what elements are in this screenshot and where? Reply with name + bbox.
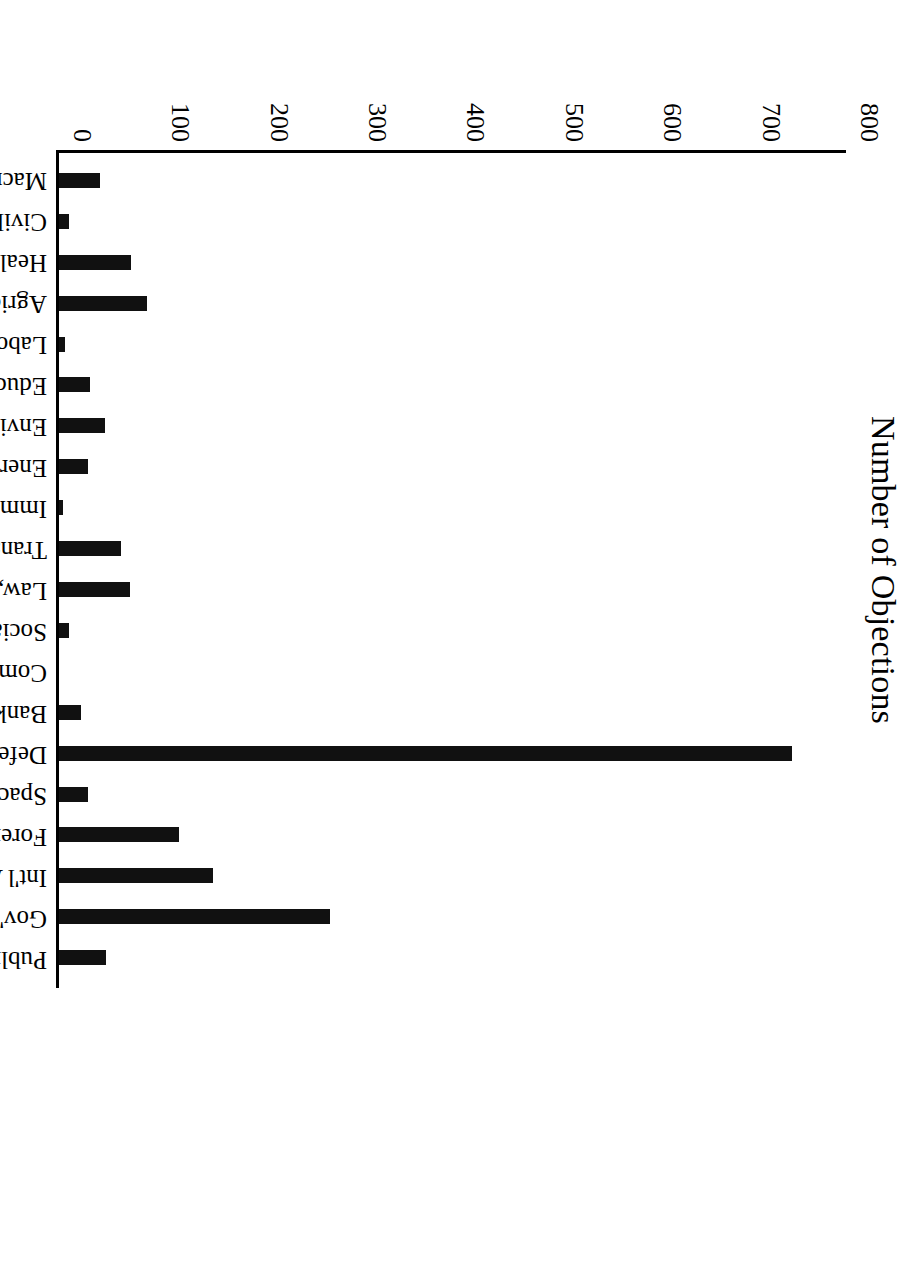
category-label-slot: Social Welfare bbox=[0, 611, 53, 652]
category-axis-tick-label: Macroeconomics bbox=[0, 168, 47, 193]
bar-slot bbox=[59, 855, 846, 896]
bar[interactable] bbox=[59, 623, 69, 638]
bar-slot bbox=[59, 569, 846, 610]
bar-slot bbox=[59, 815, 846, 856]
category-label-slot: Foreign Trade bbox=[0, 816, 53, 857]
category-axis-tick-label: Gov't Operations bbox=[0, 906, 47, 931]
category-axis-tick-label: Education bbox=[0, 373, 47, 398]
value-axis-title: Number of Objections bbox=[864, 150, 902, 990]
bar-slot bbox=[59, 692, 846, 733]
value-axis-tick-label: 400 bbox=[463, 92, 489, 142]
bar-slot bbox=[59, 242, 846, 283]
category-label-slot: Community Development & Housing bbox=[0, 652, 53, 693]
bar[interactable] bbox=[59, 746, 792, 761]
category-label-slot: Gov't Operations bbox=[0, 898, 53, 939]
category-label-slot: Law, Crime, & Family Issues bbox=[0, 570, 53, 611]
value-axis-tick-label: 0 bbox=[69, 92, 95, 142]
category-axis-tick-label: Health bbox=[0, 250, 47, 275]
value-axis-tick bbox=[56, 150, 57, 153]
value-axis-tick-label: 300 bbox=[364, 92, 390, 142]
bar-slot bbox=[59, 160, 846, 201]
category-axis-tick-label: Energy bbox=[0, 455, 47, 480]
bar[interactable] bbox=[59, 827, 179, 842]
bar-slot bbox=[59, 446, 846, 487]
bar[interactable] bbox=[59, 377, 90, 392]
category-axis-tick-label: Law, Crime, & Family Issues bbox=[0, 578, 47, 603]
category-axis-tick-label: Banking, Finance, and Dom. Commerce bbox=[0, 701, 47, 726]
value-axis-tick-label: 800 bbox=[856, 92, 882, 142]
category-axis-tick-label: Environment bbox=[0, 414, 47, 439]
bar[interactable] bbox=[59, 459, 88, 474]
bar-slot bbox=[59, 733, 846, 774]
bar-slot bbox=[59, 324, 846, 365]
category-axis-tick-label: Transportation bbox=[0, 537, 47, 562]
bar-slot bbox=[59, 487, 846, 528]
category-axis-tick-label: Social Welfare bbox=[0, 619, 47, 644]
value-axis-tick-label: 600 bbox=[659, 92, 685, 142]
category-axis-labels: MacroeconomicsCivil Rights & LibertiesHe… bbox=[0, 150, 53, 990]
bar-slot bbox=[59, 610, 846, 651]
bar-slot bbox=[59, 528, 846, 569]
bar[interactable] bbox=[59, 868, 213, 883]
bar[interactable] bbox=[59, 705, 81, 720]
bar[interactable] bbox=[59, 214, 69, 229]
category-label-slot: Immigration bbox=[0, 488, 53, 529]
category-label-slot: Space, Science, Technology bbox=[0, 775, 53, 816]
category-axis-tick-label: Int'l Affairs & Foreign Aid bbox=[0, 865, 47, 890]
bar-slot bbox=[59, 896, 846, 937]
category-label-slot: Labor and Employment bbox=[0, 324, 53, 365]
bar[interactable] bbox=[59, 255, 131, 270]
bar[interactable] bbox=[59, 541, 121, 556]
category-axis-tick-label: Public Lands bbox=[0, 947, 47, 972]
category-label-slot: Macroeconomics bbox=[0, 160, 53, 201]
bar-series bbox=[59, 150, 846, 988]
value-axis-tick-label: 500 bbox=[561, 92, 587, 142]
bar-slot bbox=[59, 651, 846, 692]
bar[interactable] bbox=[59, 950, 106, 965]
category-axis-tick-label: Foreign Trade bbox=[0, 824, 47, 849]
bar-slot bbox=[59, 937, 846, 978]
category-axis-tick-label: Civil Rights & Liberties bbox=[0, 209, 47, 234]
category-label-slot: Civil Rights & Liberties bbox=[0, 201, 53, 242]
bar[interactable] bbox=[59, 173, 100, 188]
category-label-slot: Energy bbox=[0, 447, 53, 488]
bar[interactable] bbox=[59, 500, 63, 515]
category-label-slot: Agriculture bbox=[0, 283, 53, 324]
category-label-slot: Health bbox=[0, 242, 53, 283]
plot-area: 0100200300400500600700800 bbox=[56, 150, 846, 990]
category-axis-tick-label: Agriculture bbox=[0, 291, 47, 316]
bar[interactable] bbox=[59, 787, 89, 802]
bar[interactable] bbox=[59, 418, 105, 433]
category-axis-tick-label: Immigration bbox=[0, 496, 47, 521]
bar-slot bbox=[59, 405, 846, 446]
category-axis-tick-label: Community Development & Housing bbox=[0, 660, 47, 685]
category-label-slot: Defense bbox=[0, 734, 53, 775]
value-axis-tick-label: 100 bbox=[167, 92, 193, 142]
bar[interactable] bbox=[59, 296, 147, 311]
category-axis-tick-label: Labor and Employment bbox=[0, 332, 47, 357]
bar-slot bbox=[59, 201, 846, 242]
bar[interactable] bbox=[59, 909, 331, 924]
value-axis-tick-label: 700 bbox=[758, 92, 784, 142]
category-axis-tick-label: Space, Science, Technology bbox=[0, 783, 47, 808]
bar-slot bbox=[59, 365, 846, 406]
category-label-slot: Public Lands bbox=[0, 939, 53, 980]
value-axis-tick-label: 200 bbox=[266, 92, 292, 142]
bar[interactable] bbox=[59, 337, 65, 352]
category-label-slot: Education bbox=[0, 365, 53, 406]
chart-figure: Number of Objections 0100200300400500600… bbox=[0, 0, 906, 1286]
category-label-slot: Environment bbox=[0, 406, 53, 447]
category-label-slot: Transportation bbox=[0, 529, 53, 570]
category-label-slot: Int'l Affairs & Foreign Aid bbox=[0, 857, 53, 898]
category-label-slot: Banking, Finance, and Dom. Commerce bbox=[0, 693, 53, 734]
bar-slot bbox=[59, 283, 846, 324]
category-axis-tick-label: Defense bbox=[0, 742, 47, 767]
bar[interactable] bbox=[59, 582, 130, 597]
bar-slot bbox=[59, 774, 846, 815]
